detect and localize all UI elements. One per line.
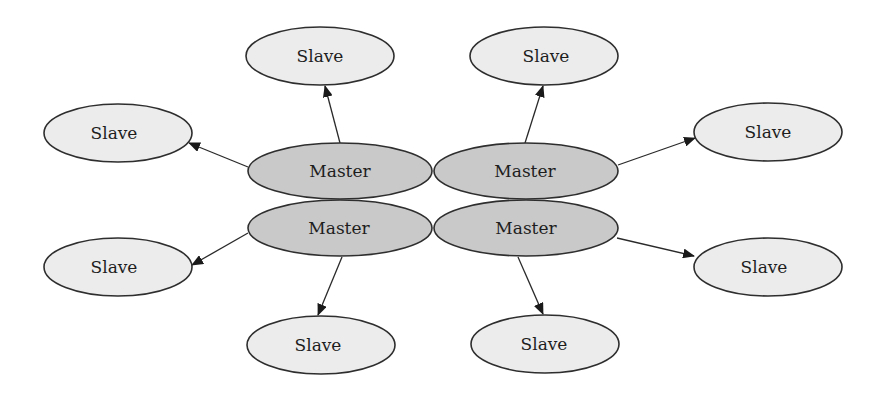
master-label: Master xyxy=(309,161,371,181)
slave-node: Slave xyxy=(471,315,619,373)
slave-node: Slave xyxy=(246,27,394,85)
edge-m4-s7 xyxy=(617,238,694,256)
edge-m2-s3 xyxy=(525,86,543,143)
slave-node: Slave xyxy=(44,104,192,162)
master-label: Master xyxy=(494,161,556,181)
edge-m2-s4 xyxy=(618,138,695,165)
slave-nodes: Slave Slave Slave Slave Slave Slave Slav… xyxy=(44,27,842,374)
edges xyxy=(189,86,695,315)
master-node: Master xyxy=(248,143,432,199)
slave-label: Slave xyxy=(295,335,342,355)
master-slave-diagram: Slave Slave Slave Slave Slave Slave Slav… xyxy=(0,0,882,395)
slave-label: Slave xyxy=(297,46,344,66)
slave-label: Slave xyxy=(745,122,792,142)
slave-node: Slave xyxy=(44,238,192,296)
slave-node: Slave xyxy=(694,103,842,161)
edge-m1-s1 xyxy=(325,86,340,143)
slave-label: Slave xyxy=(91,257,138,277)
master-label: Master xyxy=(308,218,370,238)
master-node: Master xyxy=(434,143,618,199)
slave-label: Slave xyxy=(741,257,788,277)
edge-m3-s5 xyxy=(192,233,248,265)
slave-node: Slave xyxy=(470,27,618,85)
master-node: Master xyxy=(248,200,432,256)
slave-node: Slave xyxy=(694,238,842,296)
edge-m4-s8 xyxy=(518,257,543,314)
master-label: Master xyxy=(495,218,557,238)
slave-label: Slave xyxy=(523,46,570,66)
slave-node: Slave xyxy=(247,316,395,374)
edge-m1-s2 xyxy=(189,143,248,167)
slave-label: Slave xyxy=(521,334,568,354)
master-nodes: Master Master Master Master xyxy=(248,143,618,256)
edge-m3-s6 xyxy=(318,257,342,315)
master-node: Master xyxy=(434,200,618,256)
slave-label: Slave xyxy=(91,123,138,143)
